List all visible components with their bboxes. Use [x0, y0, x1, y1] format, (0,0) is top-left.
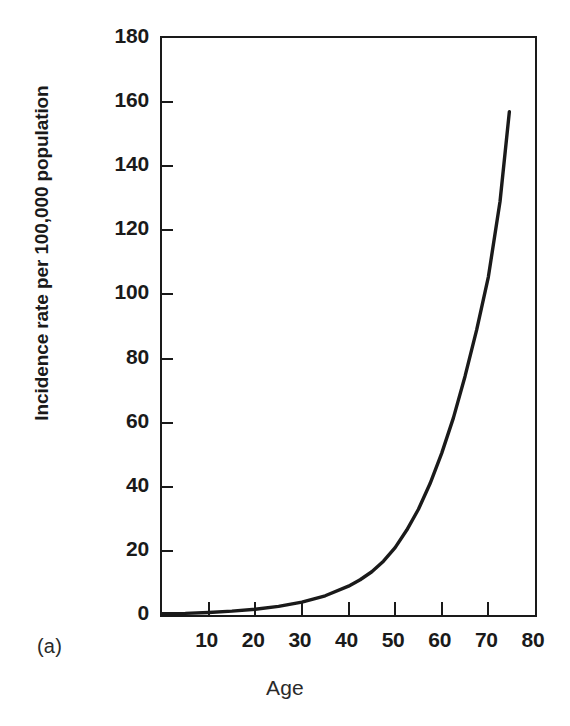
y-tick-mark: [162, 550, 173, 552]
x-axis-title: Age: [0, 676, 570, 700]
y-tick-label: 100: [115, 281, 149, 302]
y-tick-label: 80: [126, 346, 149, 367]
x-tick-mark: [441, 602, 443, 615]
x-tick-mark: [487, 602, 489, 615]
panel-label: (a): [37, 635, 62, 658]
y-tick-label: 0: [138, 602, 149, 623]
figure-panel-a: Incidence rate per 100,000 population 02…: [0, 0, 570, 726]
plot-area: [160, 36, 537, 617]
y-tick-mark: [162, 422, 173, 424]
y-tick-mark: [162, 165, 173, 167]
y-tick-label: 120: [115, 217, 149, 238]
y-tick-label: 140: [115, 153, 149, 174]
line-series-incidence-rate: [162, 38, 535, 615]
x-tick-mark: [394, 602, 396, 615]
y-tick-label: 40: [126, 474, 149, 495]
y-tick-label: 20: [126, 538, 149, 559]
y-tick-label: 180: [115, 25, 149, 46]
y-axis-title: Incidence rate per 100,000 population: [31, 43, 53, 463]
y-tick-mark: [162, 101, 173, 103]
y-tick-mark: [162, 229, 173, 231]
y-tick-label: 160: [115, 89, 149, 110]
x-tick-mark: [301, 602, 303, 615]
x-tick-mark: [208, 602, 210, 615]
y-tick-mark: [162, 486, 173, 488]
x-tick-mark: [254, 602, 256, 615]
y-tick-mark: [162, 293, 173, 295]
x-tick-mark: [348, 602, 350, 615]
y-tick-label: 60: [126, 410, 149, 431]
y-tick-mark: [162, 358, 173, 360]
curve-polyline: [162, 112, 509, 614]
x-tick-label: 80: [503, 629, 563, 650]
